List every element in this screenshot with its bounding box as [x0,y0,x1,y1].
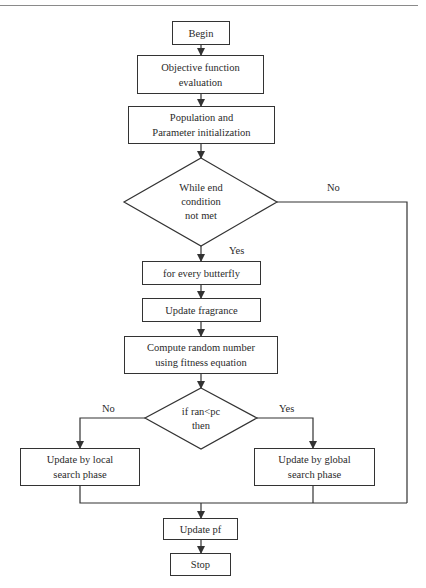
global-search-node: Update by global search phase [254,448,375,486]
global-line2: search phase [288,467,341,482]
objective-line1: Objective function [161,60,239,75]
init-line2: Parameter initialization [152,125,250,140]
if-ran-pc-decision: if ran<pc then [165,404,237,434]
while-condition-decision: While end condition not met [150,180,252,224]
update-pf-node: Update pf [163,518,238,540]
objective-line2: evaluation [179,75,223,90]
for-every-butterfly-node: for every butterfly [142,261,261,285]
begin-label: Begin [188,26,213,41]
while-line3: not met [185,209,217,223]
compute-line1: Compute random number [147,340,255,355]
if-yes-label: Yes [279,403,294,415]
global-line1: Update by global [278,452,350,467]
while-no-label: No [327,182,340,194]
objective-evaluation-node: Objective function evaluation [137,55,264,94]
update-fragrance-label: Update fragrance [165,303,238,318]
while-yes-label: Yes [229,245,244,257]
local-line2: search phase [53,467,106,482]
initialization-node: Population and Parameter initialization [128,106,275,144]
if-line1: if ran<pc [182,405,220,419]
local-line1: Update by local [47,452,113,467]
while-line2: condition [181,195,221,209]
while-line1: While end [179,181,222,195]
compute-line2: using fitness equation [155,355,247,370]
local-search-node: Update by local search phase [20,448,140,486]
compute-random-node: Compute random number using fitness equa… [124,336,278,374]
stop-label: Stop [191,557,210,572]
update-pf-label: Update pf [180,522,222,537]
if-line2: then [192,419,210,433]
stop-node: Stop [170,553,231,576]
update-fragrance-node: Update fragrance [142,298,261,322]
if-no-label: No [102,403,115,415]
begin-node: Begin [172,21,230,45]
init-line1: Population and [170,110,233,125]
for-every-label: for every butterfly [163,266,240,281]
